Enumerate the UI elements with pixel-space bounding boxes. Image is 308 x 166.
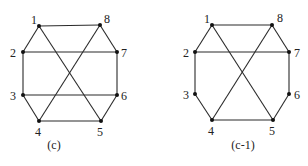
node-1: [37, 24, 41, 28]
node-5: [271, 118, 275, 122]
graph-c: 12345678(c): [10, 12, 127, 152]
node-3: [21, 93, 25, 97]
node-label-1: 1: [204, 12, 210, 26]
node-1: [210, 23, 214, 27]
edge-1-8: [39, 25, 100, 26]
edge-6-5: [101, 95, 117, 121]
node-8: [98, 23, 102, 27]
node-4: [37, 119, 41, 123]
node-label-1: 1: [31, 13, 37, 27]
node-label-8: 8: [104, 12, 110, 26]
node-6: [115, 93, 119, 97]
edge-3-4: [195, 94, 212, 120]
figure-caption: (c-1): [231, 138, 254, 152]
node-label-6: 6: [121, 89, 127, 103]
node-2: [21, 50, 25, 54]
node-label-4: 4: [35, 125, 41, 139]
graph-figure-canvas: 12345678(c) 12345678(c-1): [0, 0, 308, 166]
node-label-5: 5: [269, 124, 275, 138]
node-label-3: 3: [10, 89, 16, 103]
edge-1-2: [23, 26, 39, 52]
node-2: [193, 50, 197, 54]
figure-caption: (c): [47, 138, 60, 152]
node-3: [193, 92, 197, 96]
node-7: [115, 50, 119, 54]
node-5: [99, 119, 103, 123]
edge-3-4: [23, 95, 39, 121]
edge-1-2: [195, 25, 212, 52]
node-label-6: 6: [294, 88, 300, 102]
edge-8-7: [100, 25, 117, 52]
node-8: [270, 23, 274, 27]
node-4: [210, 118, 214, 122]
edge-6-5: [273, 94, 289, 120]
node-label-7: 7: [121, 46, 127, 60]
node-7: [287, 50, 291, 54]
graph-c-1: 12345678(c-1): [183, 11, 300, 152]
node-6: [287, 92, 291, 96]
node-label-7: 7: [294, 46, 300, 60]
node-label-3: 3: [183, 88, 189, 102]
node-label-4: 4: [208, 124, 214, 138]
node-label-5: 5: [97, 125, 103, 139]
node-label-2: 2: [183, 46, 189, 60]
node-label-8: 8: [277, 11, 283, 25]
node-label-2: 2: [10, 46, 16, 60]
edge-8-7: [272, 25, 289, 52]
